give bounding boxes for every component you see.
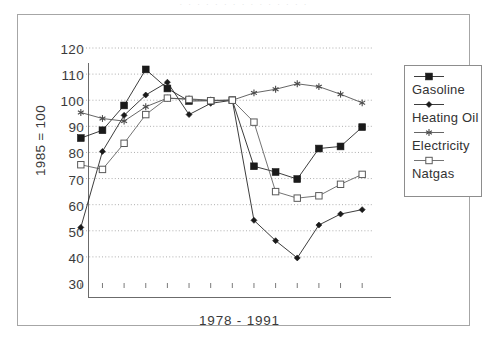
legend-label: Heating Oil — [412, 110, 481, 125]
y-axis-tick-label: 40 — [50, 250, 84, 265]
y-axis-tick-label: 80 — [50, 146, 84, 161]
y-axis-tick-label: 90 — [50, 120, 84, 135]
legend-label: Gasoline — [412, 82, 481, 97]
legend-entry-heating-oil[interactable]: Heating Oil — [412, 99, 481, 125]
legend-entry-electricity[interactable]: Electricity — [412, 127, 481, 153]
legend-entry-natgas[interactable]: Natgas — [412, 155, 481, 181]
legend-label: Natgas — [412, 166, 481, 181]
figure-frame: 30405060708090100110120 1985 = 100 1978 … — [17, 14, 470, 326]
legend-entry-gasoline[interactable]: Gasoline — [412, 71, 481, 97]
data-point-marker — [426, 157, 432, 163]
legend-marker-filled-square-icon — [412, 71, 446, 82]
y-axis-title: 1985 = 100 — [33, 91, 48, 191]
y-axis-tick-label: 70 — [50, 172, 84, 187]
x-axis-title: 1978 - 1991 — [88, 313, 391, 328]
chart-screenshot: · · · · · · · · · · · · · · · 3040506070… — [0, 0, 488, 348]
legend-marker-star-icon — [412, 127, 446, 138]
y-axis-tick-label: 100 — [50, 94, 84, 109]
data-point-marker — [426, 102, 432, 108]
data-point-marker — [426, 73, 433, 80]
y-axis-tick-label: 30 — [50, 277, 84, 292]
y-axis-tick-label: 110 — [50, 68, 84, 83]
y-axis-tick-label: 50 — [50, 224, 84, 239]
y-axis-tick-labels: 30405060708090100110120 — [48, 15, 84, 348]
scan-edge-artifact: · · · · · · · · · · · · · · · — [0, 0, 488, 9]
plot-area — [88, 63, 391, 298]
legend-marker-open-square-icon — [412, 155, 446, 166]
y-axis-tick-label: 60 — [50, 198, 84, 213]
legend-label: Electricity — [412, 138, 481, 153]
y-axis-tick-label: 120 — [50, 42, 84, 57]
chart-legend: GasolineHeating OilElectricityNatgas — [404, 65, 482, 197]
legend-marker-filled-diamond-icon — [412, 99, 446, 110]
